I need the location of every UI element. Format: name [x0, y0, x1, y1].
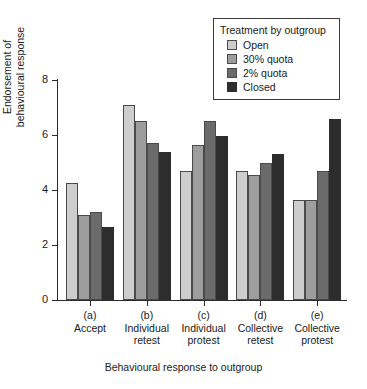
bar	[66, 183, 78, 300]
bar	[204, 121, 216, 300]
x-label-line1: Collective	[282, 322, 352, 335]
legend-item-open[interactable]: Open	[227, 38, 333, 52]
bar	[135, 121, 147, 300]
bar	[78, 215, 90, 300]
x-tick-b	[147, 300, 148, 306]
legend-item-30-quota[interactable]: 30% quota	[227, 52, 333, 66]
y-tick-label-4: 4	[42, 183, 48, 196]
legend-swatch-icon	[227, 40, 237, 50]
legend-swatch-icon	[227, 68, 237, 78]
y-tick-6: 6	[52, 135, 58, 136]
x-tick-c	[204, 300, 205, 306]
bar	[192, 145, 204, 300]
bar	[123, 105, 135, 300]
bar	[248, 175, 260, 300]
x-axis-line	[57, 300, 347, 301]
bar	[305, 200, 317, 300]
y-axis-title: Endorsement of behavioural response	[1, 0, 27, 167]
y-axis-title-line1: Endorsement of	[1, 0, 14, 167]
bar-group-c	[180, 80, 228, 300]
bar	[90, 212, 102, 300]
bar-group-d	[236, 80, 284, 300]
bar	[236, 171, 248, 300]
legend-item-2-quota[interactable]: 2% quota	[227, 66, 333, 80]
bar-chart-figure: Endorsement of behavioural response 0246…	[0, 0, 367, 389]
x-tick-a	[90, 300, 91, 306]
y-axis-title-line2: behavioural response	[14, 0, 27, 167]
legend-title: Treatment by outgroup	[220, 23, 333, 37]
legend: Treatment by outgroup Open30% quota2% qu…	[213, 18, 340, 100]
y-tick-4: 4	[52, 190, 58, 191]
x-axis-label-e: (e)Collectiveprotest	[282, 309, 352, 347]
x-tick-e	[317, 300, 318, 306]
bar	[260, 163, 272, 301]
y-tick-8: 8	[52, 80, 58, 81]
bar	[329, 119, 341, 301]
x-label-line2: protest	[282, 334, 352, 347]
y-tick-0: 0	[52, 300, 58, 301]
y-tick-2: 2	[52, 245, 58, 246]
bar-group-a	[66, 80, 114, 300]
x-label-tag: (e)	[282, 309, 352, 322]
x-tick-d	[260, 300, 261, 306]
legend-item-closed[interactable]: Closed	[227, 80, 333, 94]
bar	[147, 143, 159, 300]
legend-items: Open30% quota2% quotaClosed	[220, 38, 333, 94]
legend-item-label: 2% quota	[243, 67, 287, 80]
y-tick-label-0: 0	[42, 293, 48, 306]
bar	[272, 154, 284, 300]
bar-group-e	[293, 80, 341, 300]
bar	[102, 227, 114, 300]
bar	[216, 136, 228, 300]
plot-area: 02468	[58, 80, 342, 300]
y-tick-label-8: 8	[42, 73, 48, 86]
legend-item-label: Closed	[243, 81, 276, 94]
legend-swatch-icon	[227, 54, 237, 64]
bar	[180, 171, 192, 300]
legend-swatch-icon	[227, 82, 237, 92]
bar	[159, 152, 171, 301]
y-tick-label-6: 6	[42, 128, 48, 141]
legend-item-label: Open	[243, 39, 269, 52]
y-tick-label-2: 2	[42, 238, 48, 251]
legend-item-label: 30% quota	[243, 53, 293, 66]
bar	[317, 171, 329, 300]
bar-group-b	[123, 80, 171, 300]
bar	[293, 200, 305, 300]
x-axis-title: Behavioural response to outgroup	[0, 361, 367, 373]
